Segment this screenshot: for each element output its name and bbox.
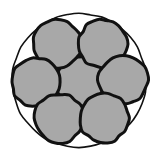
packing-diagram (0, 0, 159, 160)
figure-container (0, 0, 159, 160)
